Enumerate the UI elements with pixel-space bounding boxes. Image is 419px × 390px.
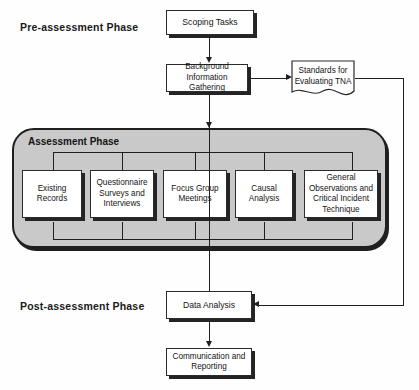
assessment-bottom-riser-4 [264, 222, 265, 240]
flowchart-canvas: Pre-assessment Phase Scoping Tasks Backg… [0, 0, 419, 390]
assessment-bottom-riser-1 [53, 222, 54, 240]
assessment-top-drop-4 [264, 152, 265, 170]
assessment-bottom-riser-3 [195, 222, 196, 240]
arrowhead-data-analysis-to-communication [206, 341, 212, 347]
feedback-bus-vertical [403, 78, 404, 305]
assessment-top-drop-5 [352, 152, 353, 170]
assessment-top-drop-2 [122, 152, 123, 170]
connector-feedback-to-data-analysis [258, 305, 404, 306]
assessment-bottom-riser-5 [352, 222, 353, 240]
assessment-top-drop-1 [53, 152, 54, 170]
document-shape-icon [291, 60, 355, 100]
node-causal-analysis[interactable]: Causal Analysis [235, 170, 293, 218]
assessment-top-bus [53, 152, 353, 153]
phase-label-pre-assessment: Pre-assessment Phase [20, 21, 138, 33]
node-communication-and-reporting[interactable]: Communication and Reporting [166, 348, 252, 376]
node-data-analysis[interactable]: Data Analysis [166, 291, 252, 319]
node-questionnaire-surveys-interviews[interactable]: Questionnaire Surveys and Interviews [90, 170, 154, 218]
connector-assessment-to-data-analysis [209, 128, 210, 299]
node-general-observations-critical-incident[interactable]: General Observations and Critical Incide… [304, 170, 378, 218]
arrowhead-feedback-to-data-analysis [253, 301, 259, 307]
connector-standards-to-feedback-bus [355, 78, 404, 79]
assessment-bottom-riser-2 [122, 222, 123, 240]
node-existing-records[interactable]: Existing Records [22, 170, 82, 218]
connector-background-to-standards [248, 78, 289, 79]
phase-label-post-assessment: Post-assessment Phase [20, 300, 144, 312]
phase-label-assessment: Assessment Phase [28, 136, 119, 147]
assessment-top-drop-3 [195, 152, 196, 170]
node-standards-for-evaluating-tna[interactable]: Standards for Evaluating TNA [291, 60, 355, 100]
assessment-bottom-bus [53, 239, 353, 240]
node-focus-group-meetings[interactable]: Focus Group Meetings [163, 170, 227, 218]
node-scoping-tasks[interactable]: Scoping Tasks [166, 10, 254, 35]
node-background-information-gathering[interactable]: Background Information Gathering [166, 64, 248, 92]
